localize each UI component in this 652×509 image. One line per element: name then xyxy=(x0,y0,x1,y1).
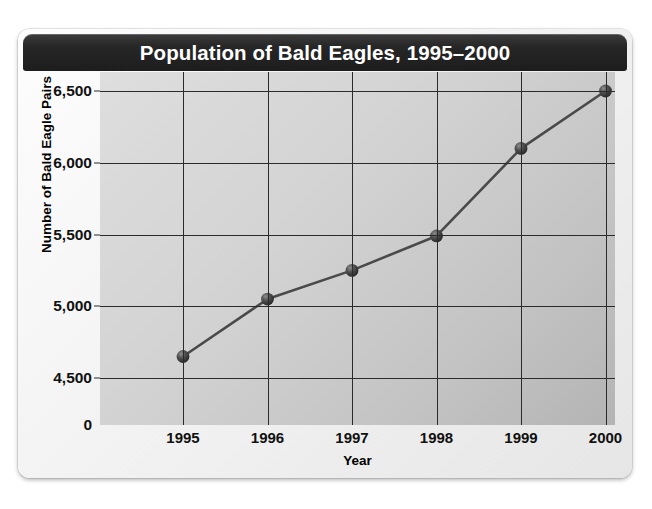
series-line-chart xyxy=(100,72,615,425)
x-tick-label: 1996 xyxy=(251,429,284,446)
series-polyline xyxy=(183,91,606,356)
x-axis-tick-labels: 199519961997199819992000 xyxy=(100,429,615,449)
grid-line-horizontal xyxy=(100,163,615,164)
y-axis-tick-labels: 6,5006,0005,5005,0004,5000 xyxy=(18,72,92,425)
grid-line-vertical xyxy=(437,72,438,425)
grid-line-horizontal xyxy=(100,91,615,92)
chart-title-bar: Population of Bald Eagles, 1995–2000 xyxy=(23,34,627,71)
grid-line-horizontal xyxy=(100,306,615,307)
y-tick-label: 6,500 xyxy=(53,82,92,100)
grid-line-vertical xyxy=(352,72,353,425)
chart-title: Population of Bald Eagles, 1995–2000 xyxy=(140,41,510,65)
y-tick-label: 6,000 xyxy=(53,154,92,172)
y-tick-label: 5,500 xyxy=(53,226,92,244)
grid-line-vertical xyxy=(183,72,184,425)
y-tick-label: 0 xyxy=(83,416,92,434)
x-tick-label: 1999 xyxy=(504,429,537,446)
x-tick-label: 1997 xyxy=(335,429,368,446)
x-tick-label: 2000 xyxy=(589,429,622,446)
y-axis-title: Number of Bald Eagle Pairs xyxy=(39,65,54,265)
x-tick-label: 1995 xyxy=(166,429,199,446)
x-axis-title: Year xyxy=(100,453,615,468)
series-markers xyxy=(177,85,612,363)
y-tick-label: 4,500 xyxy=(53,369,92,387)
grid-line-vertical xyxy=(521,72,522,425)
grid-line-vertical xyxy=(606,72,607,425)
y-tick-label: 5,000 xyxy=(53,297,92,315)
plot-area xyxy=(100,72,615,425)
x-tick-label: 1998 xyxy=(420,429,453,446)
grid-line-horizontal xyxy=(100,378,615,379)
grid-line-horizontal xyxy=(100,235,615,236)
grid-line-vertical xyxy=(268,72,269,425)
chart-card: Population of Bald Eagles, 1995–2000 6,5… xyxy=(18,29,632,478)
